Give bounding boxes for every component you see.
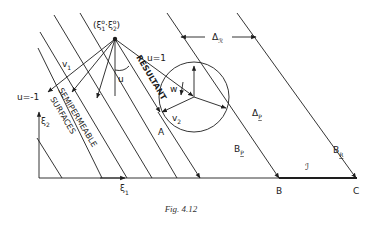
xi1-axis-label: ξ1	[120, 183, 129, 196]
B-R-label: BR	[333, 145, 343, 158]
vector-right	[194, 97, 226, 108]
B-P-label: BP	[234, 144, 244, 156]
vector	[72, 39, 115, 92]
figure-4-12: (ξ1o·ξ2o) u=1 u=-1 u v1 v2 w RESULTANT S…	[0, 0, 377, 225]
u-pos-label: u=1	[147, 53, 166, 63]
vector-v2	[162, 97, 194, 112]
delta-R-label: Δℛ	[212, 32, 223, 44]
figure-caption: Fig. 4.12	[164, 204, 198, 214]
vectogram-circle	[159, 62, 229, 132]
point-A-label: A	[158, 127, 165, 137]
u-angle-label: u	[118, 74, 124, 84]
delta-P-label: ΔP	[252, 108, 262, 120]
axes	[39, 112, 357, 178]
point-B-label: B	[276, 186, 282, 196]
xi2-axis-label: ξ2	[41, 116, 50, 128]
v1-label: v1	[62, 59, 71, 71]
point-C-label: C	[353, 186, 359, 196]
angle-u-arc	[115, 66, 129, 71]
initial-point-label: (ξ1o·ξ2o)	[93, 18, 120, 32]
w-label: w	[170, 84, 177, 94]
interval-label: ℐ	[305, 162, 309, 172]
v2-label: v2	[172, 113, 181, 125]
u-neg-label: u=-1	[17, 92, 39, 102]
semipermeable-lines	[37, 13, 356, 178]
vector-u-neg	[48, 39, 115, 92]
surface-line	[37, 138, 62, 178]
